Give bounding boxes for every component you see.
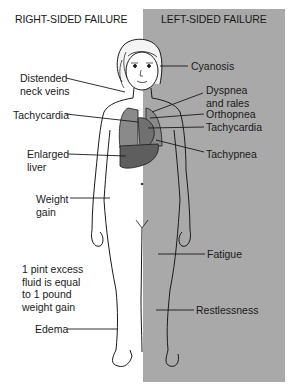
label-restlessness: Restlessness [196, 304, 258, 317]
label-distended-neck-veins: Distended neck veins [20, 72, 70, 97]
label-tachycardia-right: Tachycardia [13, 109, 69, 122]
right-lung [119, 108, 138, 148]
label-enlarged-liver: Enlarged liver [27, 148, 69, 173]
organs [119, 108, 162, 168]
label-tachypnea: Tachypnea [206, 148, 257, 161]
label-tachycardia-left: Tachycardia [206, 121, 262, 134]
label-fatigue: Fatigue [207, 248, 242, 261]
label-weight-gain: Weight gain [36, 193, 69, 218]
label-dyspnea-rales: Dyspnea and rales [206, 84, 249, 109]
label-orthopnea: Orthopnea [206, 108, 256, 121]
label-fluid-note: 1 pint excess fluid is equal to 1 pound … [22, 263, 83, 313]
face [126, 52, 158, 90]
label-cyanosis: Cyanosis [191, 60, 234, 73]
label-edema: Edema [35, 323, 68, 336]
